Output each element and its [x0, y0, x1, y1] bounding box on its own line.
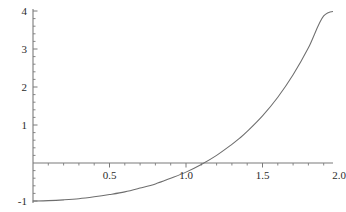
y-tick-label: -1: [0, 196, 27, 207]
y-tick-label: 1: [0, 120, 27, 131]
x-tick-label: 0.5: [103, 170, 117, 181]
y-tick-label: 2: [0, 82, 27, 93]
x-tick-label: 1.0: [179, 170, 193, 181]
y-axis-major-ticks: [33, 11, 38, 201]
x-axis-major-ticks: [110, 163, 334, 168]
x-tick-label: 2.0: [332, 170, 346, 181]
x-tick-label: 1.5: [256, 170, 270, 181]
y-tick-label: 4: [0, 6, 27, 17]
y-tick-label: 3: [0, 44, 27, 55]
